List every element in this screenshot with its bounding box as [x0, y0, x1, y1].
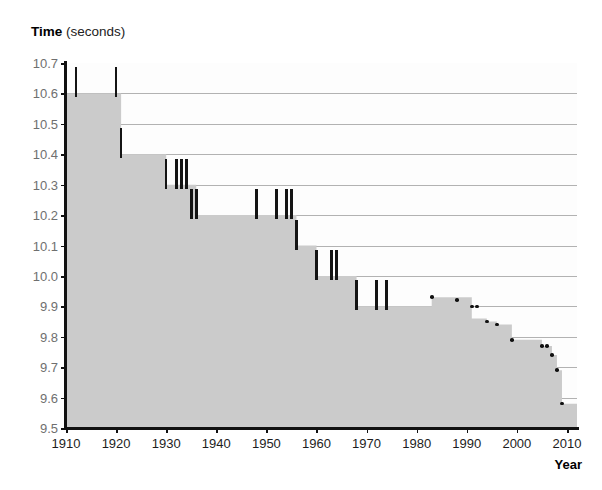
record-area-fill	[66, 63, 577, 428]
x-tick-mark	[216, 427, 218, 433]
y-tick-mark	[61, 63, 66, 65]
y-tick-mark	[61, 215, 66, 217]
record-marker-bar	[355, 280, 358, 310]
record-marker-bar	[195, 189, 198, 219]
record-marker-bar	[295, 220, 298, 250]
y-tick-label: 9.6	[12, 390, 58, 405]
y-tick-mark	[61, 246, 66, 248]
x-tick-mark	[166, 427, 168, 433]
record-marker-bar	[175, 159, 178, 189]
record-marker-dot	[470, 305, 474, 309]
record-marker-bar	[330, 250, 333, 280]
y-tick-mark	[61, 154, 66, 156]
record-marker-dot	[485, 320, 489, 324]
record-marker-bar	[275, 189, 278, 219]
record-marker-bar	[185, 159, 188, 189]
record-marker-bar	[255, 189, 258, 219]
y-tick-mark	[61, 398, 66, 400]
y-axis-title: Time (seconds)	[31, 24, 125, 39]
x-tick-mark	[367, 427, 369, 433]
y-tick-mark	[61, 93, 66, 95]
x-tick-mark	[417, 427, 419, 433]
y-tick-label: 10.0	[12, 268, 58, 283]
record-marker-bar	[335, 250, 338, 280]
y-tick-label: 9.7	[12, 360, 58, 375]
y-tick-label: 10.7	[12, 56, 58, 71]
y-tick-mark	[61, 185, 66, 187]
record-marker-dot	[430, 295, 434, 299]
x-axis-line	[64, 427, 579, 430]
record-marker-bar	[120, 128, 123, 158]
y-tick-label: 9.9	[12, 299, 58, 314]
y-tick-label: 9.5	[12, 421, 58, 436]
y-tick-mark	[61, 124, 66, 126]
x-tick-label: 1910	[52, 436, 81, 451]
record-marker-dot	[475, 305, 479, 309]
y-tick-mark	[61, 276, 66, 278]
record-marker-dot	[540, 344, 544, 348]
x-tick-label: 2000	[502, 436, 531, 451]
record-marker-bar	[315, 250, 318, 280]
record-marker-dot	[545, 344, 549, 348]
record-marker-bar	[165, 159, 168, 189]
x-tick-label: 1960	[302, 436, 331, 451]
x-tick-label: 1950	[252, 436, 281, 451]
y-tick-label: 9.8	[12, 329, 58, 344]
y-tick-mark	[61, 337, 66, 339]
y-axis-title-unit: (seconds)	[66, 24, 125, 39]
x-tick-label: 1980	[402, 436, 431, 451]
record-marker-bar	[180, 159, 183, 189]
y-axis-title-bold: Time	[31, 24, 62, 39]
x-tick-label: 1930	[152, 436, 181, 451]
record-marker-dot	[495, 323, 499, 327]
record-marker-bar	[385, 280, 388, 310]
y-tick-mark	[61, 306, 66, 308]
x-tick-label: 1990	[452, 436, 481, 451]
record-marker-bar	[375, 280, 378, 310]
y-tick-mark	[61, 367, 66, 369]
x-axis-title: Year	[555, 457, 582, 472]
record-marker-bar	[115, 67, 118, 97]
record-marker-bar	[190, 189, 193, 219]
x-tick-mark	[266, 427, 268, 433]
record-marker-bar	[75, 67, 78, 97]
y-tick-label: 10.6	[12, 86, 58, 101]
y-tick-label: 10.3	[12, 177, 58, 192]
record-marker-dot	[510, 338, 514, 342]
x-tick-mark	[66, 427, 68, 433]
x-tick-mark	[116, 427, 118, 433]
x-tick-mark	[467, 427, 469, 433]
y-tick-label: 10.2	[12, 208, 58, 223]
plot-area	[66, 63, 577, 428]
record-marker-dot	[555, 368, 559, 372]
y-tick-label: 10.5	[12, 116, 58, 131]
x-tick-mark	[517, 427, 519, 433]
x-tick-label: 1970	[352, 436, 381, 451]
x-tick-label: 1940	[202, 436, 231, 451]
record-marker-dot	[455, 298, 459, 302]
record-marker-dot	[550, 353, 554, 357]
record-marker-bar	[285, 189, 288, 219]
x-tick-label: 2010	[553, 436, 582, 451]
record-marker-bar	[290, 189, 293, 219]
x-tick-mark	[567, 427, 569, 433]
x-tick-mark	[316, 427, 318, 433]
y-tick-label: 10.4	[12, 147, 58, 162]
x-tick-label: 1920	[102, 436, 131, 451]
y-tick-label: 10.1	[12, 238, 58, 253]
chart-root: Time (seconds) Year 10.710.610.510.410.3…	[0, 0, 602, 490]
